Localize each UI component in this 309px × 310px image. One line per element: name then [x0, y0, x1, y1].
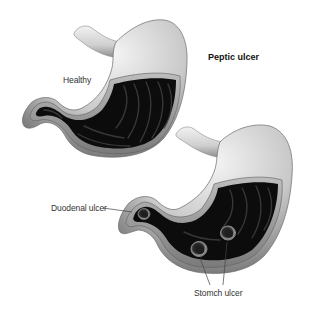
figure-title: Peptic ulcer — [208, 52, 259, 62]
duodenal-ulcer — [138, 209, 150, 220]
stomach-ulcer-label: Stomch ulcer — [194, 288, 242, 298]
ulcer-esophagus — [176, 127, 224, 158]
healthy-label: Healthy — [63, 75, 91, 85]
stomach-ulcer-2 — [221, 226, 236, 240]
duodenal-ulcer-label: Duodenal ulcer — [51, 203, 107, 213]
stomach-illustration — [0, 0, 309, 310]
stomach-ulcer-1 — [191, 242, 207, 257]
healthy-stomach — [22, 20, 187, 157]
